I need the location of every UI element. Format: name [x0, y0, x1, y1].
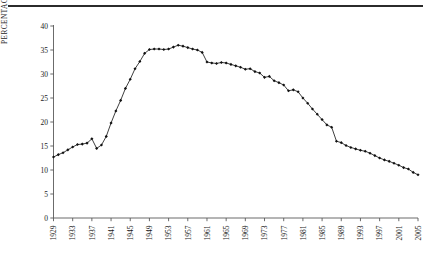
data-point-marker	[292, 88, 295, 91]
data-point-marker	[177, 44, 180, 47]
y-axis-tick-label: 25	[41, 94, 49, 103]
data-point-marker	[368, 152, 371, 155]
data-point-marker	[119, 99, 122, 102]
x-axis-tick-label: 2001	[395, 225, 404, 240]
data-point-marker	[335, 140, 338, 143]
data-point-marker	[402, 166, 405, 169]
data-point-marker	[76, 143, 79, 146]
data-point-marker	[196, 48, 199, 51]
data-point-marker	[378, 156, 381, 159]
x-axis-tick-label: 1981	[299, 225, 308, 240]
x-axis-tick-label: 1945	[126, 225, 135, 240]
data-point-marker	[392, 162, 395, 165]
data-point-marker	[397, 164, 400, 167]
data-point-marker	[157, 47, 160, 50]
x-axis-tick-label: 1985	[318, 225, 327, 240]
x-axis-tick-label: 1989	[337, 225, 346, 240]
x-axis-tick-label: 1949	[145, 225, 154, 240]
data-point-marker	[234, 64, 237, 67]
y-axis-tick-label: 10	[41, 166, 49, 175]
x-axis-tick-label: 1953	[164, 225, 173, 240]
x-axis-tick-label: 1941	[107, 225, 116, 240]
data-point-marker	[124, 87, 127, 90]
data-point-marker	[191, 47, 194, 50]
x-axis-tick-label: 1929	[49, 225, 58, 240]
data-point-marker	[383, 158, 386, 161]
x-axis-tick-label: 1961	[203, 225, 212, 240]
data-point-marker	[162, 48, 165, 51]
x-axis-tick-label: 1969	[241, 225, 250, 240]
data-point-marker	[416, 173, 419, 176]
data-point-marker	[129, 78, 132, 81]
data-point-marker	[373, 154, 376, 157]
y-axis-tick-label: 30	[41, 70, 49, 79]
y-axis-tick-label: 5	[44, 190, 48, 199]
x-axis-tick-label: 1933	[68, 225, 77, 240]
data-point-marker	[57, 153, 60, 156]
x-axis-tick-label: 1973	[260, 225, 269, 240]
data-point-marker	[110, 121, 113, 124]
data-point-marker	[201, 51, 204, 54]
y-axis-tick-label: 20	[41, 118, 49, 127]
x-axis-tick-label: 1957	[184, 225, 193, 240]
data-series-markers	[52, 44, 420, 177]
data-point-marker	[52, 155, 55, 158]
line-chart-plot: 0510152025303540192919331937194119451949…	[0, 0, 431, 267]
data-point-marker	[167, 47, 170, 50]
data-point-marker	[359, 149, 362, 152]
data-point-marker	[215, 62, 218, 65]
data-point-marker	[244, 68, 247, 71]
y-axis-tick-label: 0	[44, 214, 48, 223]
x-axis-tick-label: 1993	[356, 225, 365, 240]
data-point-marker	[181, 45, 184, 48]
data-point-marker	[229, 63, 232, 66]
data-point-marker	[225, 61, 228, 64]
y-axis-tick-label: 35	[41, 46, 49, 55]
data-point-marker	[349, 146, 352, 149]
data-point-marker	[186, 46, 189, 49]
x-axis-tick-label: 1937	[88, 225, 97, 240]
x-axis-tick-label: 2005	[414, 225, 423, 240]
data-point-marker	[172, 46, 175, 49]
x-axis-tick-label: 1965	[222, 225, 231, 240]
data-point-marker	[364, 150, 367, 153]
data-point-marker	[330, 126, 333, 129]
x-axis-tick-label: 1977	[280, 225, 289, 240]
figure-canvas: PERCENTAGE OF PRIVATE SECTOR EMPLOYEES 0…	[0, 0, 431, 267]
data-point-marker	[153, 47, 156, 50]
y-axis-tick-label: 40	[41, 22, 49, 31]
y-axis-tick-label: 15	[41, 142, 49, 151]
data-point-marker	[205, 60, 208, 63]
data-point-marker	[354, 147, 357, 150]
data-point-marker	[210, 61, 213, 64]
data-point-marker	[220, 61, 223, 64]
data-point-marker	[277, 81, 280, 84]
data-point-marker	[81, 143, 84, 146]
x-axis-tick-label: 1997	[375, 225, 384, 240]
data-point-marker	[114, 109, 117, 112]
data-point-marker	[239, 66, 242, 69]
data-point-marker	[388, 160, 391, 163]
